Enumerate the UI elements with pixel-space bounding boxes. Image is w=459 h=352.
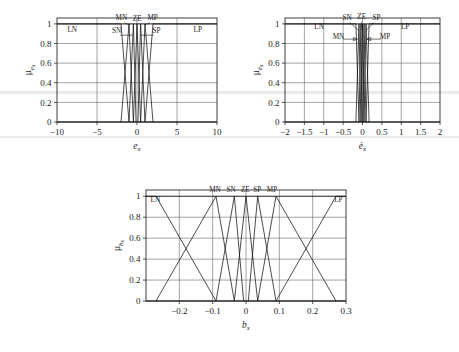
mf-label-mn: MN — [209, 186, 221, 194]
membership-curve-lp — [276, 196, 346, 301]
x-tick-label: −0.1 — [205, 306, 221, 316]
x-tick-label: −0.2 — [171, 306, 187, 316]
membership-curve-ln — [146, 196, 216, 301]
chart-bx-canvas: 00.20.40.60.81−0.2−0.100.10.20.3bxμbxLNM… — [0, 0, 459, 352]
chart-bx-y-axis: 00.20.40.60.81 — [129, 191, 146, 306]
x-tick-label: 0.1 — [274, 306, 285, 316]
chart-bx-x-axis: −0.2−0.100.10.20.3 — [171, 301, 352, 316]
mf-label-lp: LP — [334, 196, 342, 204]
y-tick-label: 0.4 — [129, 254, 141, 264]
mf-label-ln: LN — [151, 196, 161, 204]
y-tick-label: 0.6 — [129, 233, 141, 243]
mf-label-mp: MP — [267, 186, 277, 194]
x-tick-label: 0 — [244, 306, 249, 316]
mf-label-ze: ZE — [241, 186, 250, 194]
mf-label-sn: SN — [226, 186, 236, 194]
x-tick-label: 0.3 — [340, 306, 352, 316]
axis-label-text: μbx — [112, 239, 125, 251]
y-tick-label: 1 — [136, 191, 141, 201]
membership-curve-mp — [258, 196, 336, 301]
chart-bx-xlabel: bx — [242, 320, 251, 332]
figure-page: { "figure": { "title": "", "background":… — [0, 0, 459, 352]
membership-curve-sn — [216, 196, 244, 301]
membership-curve-mn — [156, 196, 234, 301]
mf-label-sp: SP — [253, 186, 261, 194]
y-tick-label: 0.8 — [129, 212, 141, 222]
y-tick-label: 0.2 — [129, 275, 140, 285]
x-tick-label: 0.2 — [307, 306, 318, 316]
chart-bx-gridlines — [146, 190, 346, 301]
y-tick-label: 0 — [136, 296, 141, 306]
membership-curve-sp — [248, 196, 276, 301]
